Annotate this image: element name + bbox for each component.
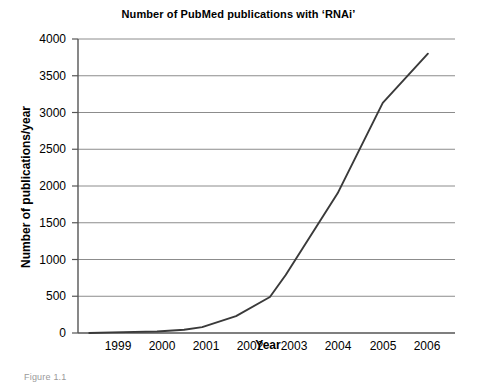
chart-plot-area bbox=[0, 0, 477, 389]
y-tick-marks bbox=[72, 39, 78, 333]
ytick-label-0: 0 bbox=[18, 327, 66, 339]
x-axis-title: Year bbox=[78, 338, 458, 352]
data-series-line bbox=[89, 54, 428, 333]
gridlines bbox=[78, 39, 455, 296]
y-axis-title: Number of publications/year bbox=[19, 77, 33, 297]
figure-container: Number of PubMed publications with ‘RNAi… bbox=[0, 0, 477, 389]
figure-caption: Figure 1.1 bbox=[24, 372, 67, 382]
ytick-label-4000: 4000 bbox=[18, 33, 66, 45]
